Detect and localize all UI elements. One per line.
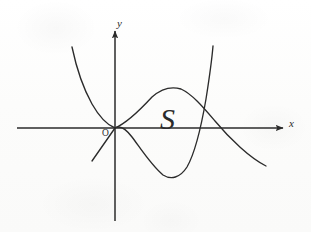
curve-lower [92,46,213,178]
x-axis-label: x [289,117,294,129]
origin-label: O [102,128,109,138]
graph-canvas [0,0,311,232]
figure-container: x y O S [0,0,311,232]
region-label-s: S [160,104,175,134]
y-axis-label: y [117,17,122,29]
